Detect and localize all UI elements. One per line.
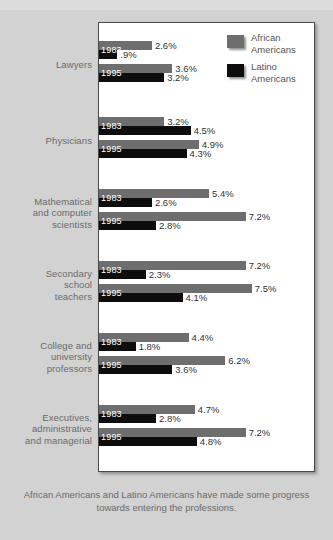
category-label: Lawyers	[0, 59, 92, 71]
bar-value-label-latino-american: 4.3%	[190, 149, 212, 158]
bar-african-american	[99, 284, 252, 293]
bar-value-label-latino-american: 4.5%	[194, 126, 216, 135]
legend-label-line1: Latino	[251, 61, 277, 72]
category-label-line: Mathematical	[0, 196, 92, 208]
bar-value-label-latino-american: 2.8%	[159, 221, 181, 230]
bar-value-label-african-american: 4.7%	[198, 405, 220, 414]
category-label-line: College and	[0, 340, 92, 352]
legend-label-line1: African	[251, 32, 281, 43]
bar-pair-1995: 19956.2%3.6%	[99, 356, 314, 376]
category-label-line: Secondary	[0, 268, 92, 280]
bar-value-label-latino-american: 4.8%	[200, 437, 222, 446]
category-label-line: administrative	[0, 423, 92, 435]
bar-year-label: 1983	[101, 407, 122, 421]
bar-year-label: 1983	[101, 43, 122, 57]
top-background-strip	[0, 0, 333, 10]
figure-caption: African Americans and Latino Americans h…	[16, 488, 317, 514]
bar-pair-1983: 19834.7%2.8%	[99, 405, 314, 425]
bar-value-label-latino-american: 2.3%	[149, 270, 171, 279]
bar-pair-1983: 19833.2%4.5%	[99, 117, 314, 137]
bar-pair-1983: 19834.4%1.8%	[99, 333, 314, 353]
bar-pair-1995: 19957.2%2.8%	[99, 212, 314, 232]
bar-value-label-latino-american: 1.8%	[139, 342, 161, 351]
bar-value-label-african-american: 3.2%	[167, 117, 189, 126]
category-label-line: and computer	[0, 207, 92, 219]
bar-value-label-latino-american: 2.8%	[159, 414, 181, 423]
category-label-line: teachers	[0, 291, 92, 303]
category-label: Physicians	[0, 135, 92, 147]
category-label-line: university	[0, 351, 92, 363]
bar-value-label-latino-american: 3.6%	[175, 365, 197, 374]
bar-value-label-latino-american: 3.2%	[167, 73, 189, 82]
bar-year-label: 1983	[101, 335, 122, 349]
category-label: Mathematicaland computerscientists	[0, 196, 92, 231]
chart-legend: African Americans Latino Americans	[227, 33, 313, 91]
legend-label-line2: Americans	[251, 44, 296, 55]
bar-pair-1995: 19957.2%4.8%	[99, 428, 314, 448]
legend-label-latino-americans: Latino Americans	[251, 61, 296, 84]
legend-swatch-icon-latino-americans	[227, 64, 244, 77]
bar-year-label: 1995	[101, 142, 122, 156]
bar-year-label: 1995	[101, 214, 122, 228]
bar-year-label: 1983	[101, 119, 122, 133]
bar-year-label: 1983	[101, 263, 122, 277]
legend-item-african-americans: African Americans	[227, 33, 313, 62]
bar-value-label-african-american: 5.4%	[212, 189, 234, 198]
bar-value-label-african-american: 4.4%	[192, 333, 214, 342]
category-label: College anduniversityprofessors	[0, 340, 92, 375]
chart-panel: 19832.6%.9%19953.6%3.2%19833.2%4.5%19954…	[98, 22, 315, 472]
bar-year-label: 1995	[101, 286, 122, 300]
bar-year-label: 1983	[101, 191, 122, 205]
category-label-line: scientists	[0, 219, 92, 231]
bar-value-label-latino-american: .9%	[120, 50, 136, 59]
bar-value-label-african-american: 2.6%	[155, 41, 177, 50]
category-axis-labels: LawyersPhysiciansMathematicaland compute…	[0, 22, 96, 472]
category-label-line: professors	[0, 363, 92, 375]
legend-swatch-icon-african-americans	[227, 35, 244, 48]
legend-item-latino-americans: Latino Americans	[227, 62, 313, 91]
category-label-line: school	[0, 279, 92, 291]
category-label-line: Physicians	[0, 135, 92, 147]
bar-year-label: 1995	[101, 66, 122, 80]
bar-pair-1983: 19835.4%2.6%	[99, 189, 314, 209]
chart-figure: LawyersPhysiciansMathematicaland compute…	[0, 0, 333, 540]
category-label-line: Executives,	[0, 412, 92, 424]
legend-label-african-americans: African Americans	[251, 32, 296, 55]
bar-pair-1983: 19837.2%2.3%	[99, 261, 314, 281]
bar-year-label: 1995	[101, 358, 122, 372]
bar-year-label: 1995	[101, 430, 122, 444]
bar-value-label-african-american: 7.5%	[255, 284, 277, 293]
bar-value-label-latino-american: 2.6%	[155, 198, 177, 207]
bar-value-label-latino-american: 4.1%	[186, 293, 208, 302]
legend-label-line2: Americans	[251, 73, 296, 84]
category-label-line: and managerial	[0, 435, 92, 447]
bar-value-label-african-american: 7.2%	[249, 428, 271, 437]
category-label-line: Lawyers	[0, 59, 92, 71]
category-label: Executives,administrativeand managerial	[0, 412, 92, 447]
bar-value-label-african-american: 7.2%	[249, 212, 271, 221]
bar-value-label-african-american: 6.2%	[228, 356, 250, 365]
bar-pair-1995: 19957.5%4.1%	[99, 284, 314, 304]
bar-pair-1995: 19954.9%4.3%	[99, 140, 314, 160]
bar-value-label-african-american: 7.2%	[249, 261, 271, 270]
category-label: Secondaryschoolteachers	[0, 268, 92, 303]
